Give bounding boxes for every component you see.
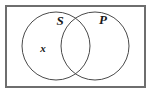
set-s-label: S [56, 13, 63, 28]
set-p-label: P [99, 12, 108, 27]
venn-diagram-canvas: S P x [0, 0, 158, 97]
element-x-label: x [39, 42, 46, 54]
venn-diagram-figure: S P x [0, 0, 158, 97]
